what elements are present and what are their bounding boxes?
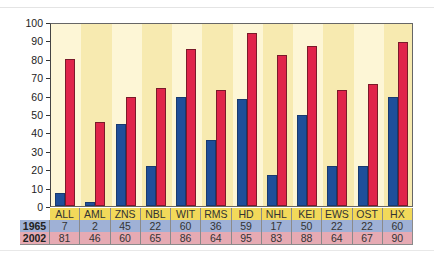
y-tick-label: 50	[3, 110, 43, 120]
table-cell: 83	[262, 232, 292, 244]
y-tick-label: 70	[3, 73, 43, 83]
table-cell: 17	[262, 220, 292, 232]
row-label: 2002	[20, 232, 50, 244]
category-column-hx	[384, 24, 413, 206]
y-tick-label: 30	[3, 147, 43, 157]
bar-2002-ost	[368, 84, 378, 206]
bar-2002-hd	[247, 33, 257, 206]
category-column-hd	[233, 24, 263, 206]
bar-2002-aml	[95, 122, 105, 206]
bar-2002-nbl	[156, 88, 166, 206]
table-cell: 45	[111, 220, 141, 232]
category-column-ost	[354, 24, 384, 206]
table-cell: NBL	[141, 208, 171, 220]
table-cell: 60	[111, 232, 141, 244]
category-column-ews	[323, 24, 353, 206]
table-cell: 7	[50, 220, 80, 232]
bar-2002-zns	[126, 97, 136, 206]
table-cell: 65	[141, 232, 171, 244]
y-tick-label: 60	[3, 92, 43, 102]
table-cell: OST	[353, 208, 383, 220]
y-tick-label: 20	[3, 165, 43, 175]
table-cell: 22	[141, 220, 171, 232]
table-cell: 64	[322, 232, 352, 244]
table-cell: RMS	[201, 208, 231, 220]
row-label: 1965	[20, 220, 50, 232]
bar-2002-hx	[398, 42, 408, 206]
bar-1965-zns	[116, 124, 126, 206]
table-cell: NHL	[262, 208, 292, 220]
bar-2002-nhl	[277, 55, 287, 206]
bar-1965-ews	[327, 166, 337, 206]
table-cell: 59	[232, 220, 262, 232]
bar-1965-nhl	[267, 175, 277, 206]
bar-1965-kei	[297, 115, 307, 206]
category-column-aml	[81, 24, 111, 206]
table-cell: 64	[201, 232, 231, 244]
bar-2002-ews	[337, 90, 347, 206]
y-tick-label: 100	[3, 18, 43, 28]
y-tick-label: 40	[3, 128, 43, 138]
category-column-wit	[172, 24, 202, 206]
category-column-nbl	[142, 24, 172, 206]
category-column-all	[51, 24, 81, 206]
bar-2002-all	[65, 59, 75, 206]
bar-2002-rms	[216, 90, 226, 206]
bar-1965-aml	[85, 202, 95, 206]
y-tick-label: 10	[3, 184, 43, 194]
table-cell: HX	[383, 208, 413, 220]
bar-chart: 0102030405060708090100 ALLAMLZNSNBLWITRM…	[0, 0, 434, 254]
table-cell: 95	[232, 232, 262, 244]
table-cell: EWS	[322, 208, 352, 220]
category-column-rms	[202, 24, 232, 206]
table-cell: 60	[383, 220, 413, 232]
category-column-kei	[293, 24, 323, 206]
bar-1965-nbl	[146, 166, 156, 206]
table-cell: ALL	[50, 208, 80, 220]
bar-1965-ost	[358, 166, 368, 206]
table-cell: HD	[232, 208, 262, 220]
bar-1965-wit	[176, 97, 186, 206]
table-cell: 22	[353, 220, 383, 232]
table-cell: 22	[322, 220, 352, 232]
series-row-2002: 2002814660658664958388646790	[20, 232, 413, 245]
table-cell: 90	[383, 232, 413, 244]
category-column-nhl	[263, 24, 293, 206]
bar-2002-kei	[307, 46, 317, 206]
bar-2002-wit	[186, 49, 196, 206]
plot-area	[50, 23, 413, 207]
bar-1965-all	[55, 193, 65, 206]
table-cell: 36	[201, 220, 231, 232]
table-cell: WIT	[171, 208, 201, 220]
table-cell: 88	[292, 232, 322, 244]
table-cell: 60	[171, 220, 201, 232]
table-cell: 46	[80, 232, 110, 244]
table-cell: AML	[80, 208, 110, 220]
table-cell: KEI	[292, 208, 322, 220]
table-cell: ZNS	[111, 208, 141, 220]
bar-1965-rms	[206, 140, 216, 206]
y-tick-label: 80	[3, 55, 43, 65]
bar-1965-hx	[388, 97, 398, 206]
category-column-zns	[112, 24, 142, 206]
y-tick-label: 90	[3, 36, 43, 46]
empty-corner	[20, 208, 50, 220]
table-cell: 67	[353, 232, 383, 244]
bar-1965-hd	[237, 99, 247, 206]
table-cell: 81	[50, 232, 80, 244]
table-cell: 50	[292, 220, 322, 232]
table-cell: 2	[80, 220, 110, 232]
table-cell: 86	[171, 232, 201, 244]
